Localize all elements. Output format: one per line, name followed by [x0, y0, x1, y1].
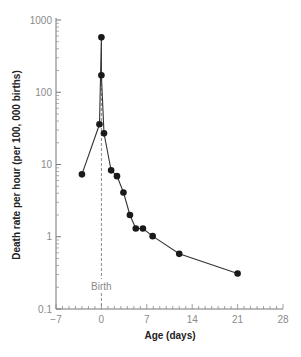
data-point [176, 251, 183, 258]
axes [56, 18, 283, 309]
data-point [79, 171, 86, 178]
data-point [132, 225, 139, 232]
x-tick-label: 28 [277, 314, 289, 325]
y-tick-label: 10 [41, 159, 53, 170]
birth-label: Birth [91, 281, 112, 292]
chart: 0.11101001000 −707142128 Birth Age (days… [0, 0, 301, 357]
y-tick-label: 1 [46, 231, 52, 242]
data-point [98, 34, 105, 41]
x-tick-label: 14 [187, 314, 199, 325]
data-point [96, 121, 103, 128]
series-line [82, 37, 238, 273]
data-point [114, 173, 121, 180]
data-point [234, 270, 241, 277]
series [79, 34, 241, 277]
y-tick-label: 100 [35, 87, 52, 98]
data-point [127, 212, 134, 219]
data-point [108, 167, 115, 174]
y-tick-label: 0.1 [38, 304, 52, 315]
x-tick-label: −7 [50, 314, 62, 325]
data-point [98, 72, 105, 79]
x-axis-title: Age (days) [144, 330, 195, 341]
x-axis-ticks: −707142128 [50, 304, 289, 325]
data-point [120, 189, 127, 196]
data-point [101, 130, 108, 137]
x-tick-label: 21 [232, 314, 244, 325]
y-tick-label: 1000 [30, 15, 53, 26]
data-point [149, 233, 156, 240]
data-point [140, 225, 147, 232]
x-tick-label: 0 [99, 314, 105, 325]
y-axis-title: Death rate per hour (per 100, 000 births… [11, 70, 22, 260]
x-tick-label: 7 [144, 314, 150, 325]
